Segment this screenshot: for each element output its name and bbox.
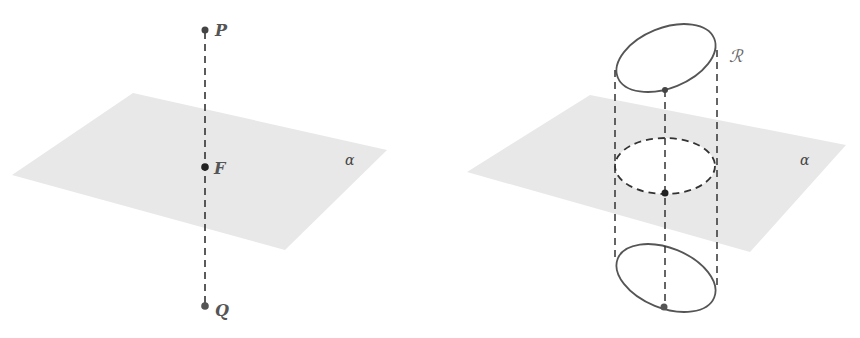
plane-alpha-left: [12, 93, 387, 250]
point-q: [201, 302, 209, 310]
left-figure: P F Q α: [12, 21, 387, 320]
diagram-canvas: P F Q α ℛ α: [0, 0, 860, 338]
point-middle: [662, 190, 669, 197]
label-alpha-right: α: [800, 152, 810, 168]
region-bottom: [607, 231, 726, 326]
point-p: [202, 27, 209, 34]
label-region-r: ℛ: [729, 46, 744, 66]
point-top: [662, 87, 668, 93]
point-f: [201, 163, 209, 171]
label-p: P: [214, 21, 228, 40]
label-alpha-left: α: [345, 152, 355, 168]
right-figure: ℛ α: [467, 11, 846, 326]
label-q: Q: [215, 301, 229, 320]
point-bottom: [661, 304, 668, 311]
plane-alpha-right: [467, 95, 846, 252]
label-f: F: [213, 159, 227, 178]
